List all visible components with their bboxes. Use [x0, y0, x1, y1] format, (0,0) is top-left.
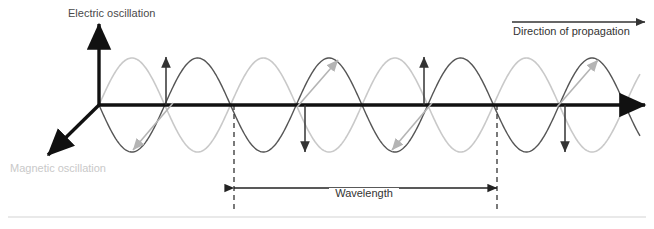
em-wave-diagram: Electric oscillation Magnetic oscillatio… — [0, 0, 654, 229]
field-arrow-magnetic-up-right — [557, 60, 598, 107]
direction-of-propagation-label: Direction of propagation — [513, 26, 630, 37]
wavelength-label-text: Wavelength — [329, 188, 399, 199]
magnetic-oscillation-label: Magnetic oscillation — [10, 163, 106, 174]
field-arrow-magnetic-up-right — [297, 60, 338, 107]
field-arrow-magnetic-down-left — [392, 103, 432, 150]
electric-oscillation-label: Electric oscillation — [68, 8, 155, 19]
wavelength-label: Wavelength — [0, 188, 654, 199]
field-arrow-magnetic-down-left — [133, 103, 173, 150]
